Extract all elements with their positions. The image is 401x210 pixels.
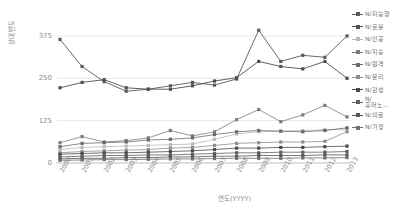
legend-marker-icon	[352, 124, 363, 131]
legend-marker-icon	[352, 11, 363, 18]
series-line	[58, 126, 348, 148]
legend-marker-icon	[352, 61, 363, 68]
legend-marker-icon	[352, 74, 363, 81]
legend-item-label: N/지능	[365, 49, 384, 55]
legend-item-label: N/의료	[365, 112, 384, 118]
legend-item-label: N/로봇	[365, 24, 384, 30]
legend-marker-icon	[352, 112, 363, 119]
legend-item-label: N/가정	[365, 124, 384, 130]
chart-container: 0125250375 상대빈도 연도(YYYY) N/지능형N/로봇N/인공N/…	[0, 0, 401, 210]
legend-item-label: N/원격	[365, 61, 384, 67]
legend-item[interactable]: N/ 휴머노...	[352, 96, 401, 109]
legend-item[interactable]: N/지능	[352, 46, 401, 59]
legend-item[interactable]: N/원격	[352, 58, 401, 71]
legend-marker-icon	[352, 49, 363, 56]
legend-item[interactable]: N/문리	[352, 71, 401, 84]
legend-marker-icon	[352, 23, 363, 30]
series-line	[58, 60, 348, 91]
legend-item-label: N/감성	[365, 87, 384, 93]
legend-item[interactable]: N/인공	[352, 33, 401, 46]
series-line	[58, 104, 348, 145]
legend-item[interactable]: N/의료	[352, 109, 401, 122]
legend-item-label: N/ 휴머노...	[365, 96, 389, 109]
legend-marker-icon	[352, 86, 363, 93]
legend-item-label: N/문리	[365, 74, 384, 80]
legend-marker-icon	[352, 36, 363, 43]
legend-item[interactable]: N/로봇	[352, 21, 401, 34]
legend-item[interactable]: N/지능형	[352, 8, 401, 21]
legend-item-label: N/지능형	[365, 11, 390, 17]
legend-item[interactable]: N/가정	[352, 121, 401, 134]
plot-area	[0, 0, 401, 210]
legend-marker-icon	[352, 99, 363, 106]
legend-item[interactable]: N/감성	[352, 84, 401, 97]
legend-item-label: N/인공	[365, 36, 384, 42]
chart-legend: N/지능형N/로봇N/인공N/지능N/원격N/문리N/감성N/ 휴머노...N/…	[352, 8, 401, 134]
